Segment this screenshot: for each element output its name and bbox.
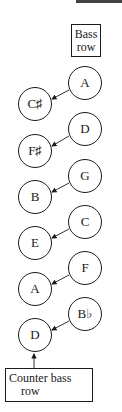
bass-note-g: G [68, 159, 102, 193]
arrow-a-to-csharp [52, 90, 69, 99]
note-label: C [81, 214, 90, 230]
counter-bass-row-label: Counter bass row [5, 368, 93, 402]
counter-note-e: E [18, 226, 52, 260]
note-label: D [80, 121, 89, 137]
bass-note-f: F [68, 251, 102, 285]
counter-note-fsharp: F♯ [18, 134, 52, 168]
arrow-layer [0, 0, 122, 412]
arrow-bflat-to-d [52, 321, 69, 330]
note-label: A [30, 281, 39, 297]
note-label: A [80, 75, 89, 91]
arrow-d-to-fsharp [52, 136, 69, 146]
counter-bass-row-label-line1: Counter bass [9, 371, 71, 385]
counter-note-csharp: C♯ [18, 87, 52, 121]
note-label: G [80, 168, 89, 184]
bass-note-a: A [68, 66, 102, 100]
note-label: B♭ [78, 306, 93, 322]
note-label: F [81, 260, 88, 276]
counter-note-d: D [18, 318, 52, 352]
arrow-f-to-a [52, 275, 69, 284]
bass-note-bflat: B♭ [68, 297, 102, 331]
note-label: D [30, 327, 39, 343]
counter-note-b: B [18, 180, 52, 214]
note-label: B [31, 189, 40, 205]
bass-note-d: D [68, 112, 102, 146]
bass-note-c: C [68, 205, 102, 239]
note-label: E [31, 235, 39, 251]
arrow-g-to-b [52, 183, 69, 192]
counter-bass-row-label-line2: row [9, 385, 92, 398]
note-label: F♯ [28, 143, 42, 159]
arrow-c-to-e [52, 229, 69, 238]
counter-note-a: A [18, 272, 52, 306]
note-label: C♯ [27, 96, 42, 112]
